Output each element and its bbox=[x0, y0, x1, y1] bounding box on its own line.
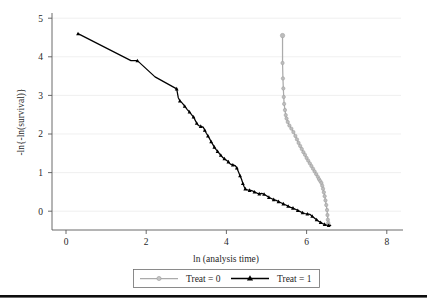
legend-label-treat-0: Treat = 0 bbox=[186, 274, 221, 284]
data-point-marker-circle bbox=[282, 87, 285, 90]
data-point-marker-circle bbox=[324, 199, 327, 202]
x-tick-label-0: 0 bbox=[64, 237, 69, 247]
data-point-marker-circle bbox=[294, 134, 297, 137]
series-line bbox=[283, 36, 329, 225]
data-point-marker-circle bbox=[288, 124, 291, 127]
data-point-marker-circle bbox=[281, 77, 284, 80]
legend-label-treat-1: Treat = 1 bbox=[277, 274, 312, 284]
y-tick-label-1: 1 bbox=[38, 168, 43, 178]
data-point-marker-circle bbox=[290, 127, 293, 130]
data-point-marker-circle bbox=[295, 138, 298, 141]
series-treat-0 bbox=[280, 33, 330, 226]
y-tick-label-2: 2 bbox=[38, 129, 43, 139]
y-tick-label-5: 5 bbox=[38, 14, 43, 24]
data-point-marker-circle bbox=[283, 108, 286, 111]
data-point-marker-triangle bbox=[241, 181, 245, 185]
chart-canvas: 5 4 3 2 1 0 0 2 4 6 8 -ln{-ln(survival)}… bbox=[0, 0, 427, 307]
x-axis-ticks: 0 2 4 6 8 bbox=[64, 230, 390, 247]
y-axis-ticks: 5 4 3 2 1 0 bbox=[38, 14, 52, 217]
bottom-divider-rule bbox=[0, 295, 427, 298]
x-tick-label-8: 8 bbox=[384, 237, 389, 247]
data-point-marker-circle bbox=[281, 61, 284, 64]
data-point-marker-circle bbox=[321, 187, 324, 190]
data-point-marker-circle bbox=[286, 120, 289, 123]
data-point-marker-circle bbox=[322, 191, 325, 194]
legend-marker-circle-icon bbox=[157, 276, 161, 280]
data-point-marker-circle bbox=[284, 113, 287, 116]
x-tick-label-2: 2 bbox=[144, 237, 149, 247]
data-point-marker-circle bbox=[292, 130, 295, 133]
chart-legend[interactable]: Treat = 0 Treat = 1 bbox=[134, 270, 320, 288]
data-point-marker-circle bbox=[280, 33, 284, 37]
data-point-marker-circle bbox=[285, 117, 288, 120]
x-axis-title: ln (analysis time) bbox=[193, 254, 259, 265]
data-point-marker-triangle bbox=[76, 32, 80, 36]
y-tick-label-4: 4 bbox=[38, 52, 43, 62]
data-point-marker-triangle bbox=[238, 174, 242, 178]
data-point-marker-circle bbox=[323, 194, 326, 197]
y-tick-label-3: 3 bbox=[38, 91, 43, 101]
data-point-marker-circle bbox=[282, 102, 285, 105]
axes bbox=[52, 13, 403, 230]
y-axis-title: -ln{-ln(survival)} bbox=[16, 88, 27, 155]
figure-container: 5 4 3 2 1 0 0 2 4 6 8 -ln{-ln(survival)}… bbox=[0, 0, 427, 307]
data-point-marker-circle bbox=[325, 203, 328, 206]
data-point-marker-circle bbox=[282, 95, 285, 98]
series-layer bbox=[76, 32, 331, 227]
x-tick-label-6: 6 bbox=[304, 237, 309, 247]
y-tick-label-0: 0 bbox=[38, 207, 43, 217]
data-point-marker-circle bbox=[325, 208, 328, 211]
data-point-marker-circle bbox=[326, 213, 329, 216]
x-tick-label-4: 4 bbox=[224, 237, 229, 247]
